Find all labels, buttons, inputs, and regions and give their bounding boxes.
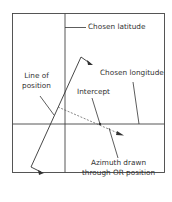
label-line-of-position-line2: position — [22, 81, 51, 91]
label-line-of-position: Line of position — [22, 71, 51, 90]
leader-intercept — [92, 98, 100, 124]
label-intercept: Intercept — [77, 87, 110, 97]
leader-chosen-longitude — [133, 82, 139, 124]
label-azimuth-line1: Azimuth drawn — [82, 158, 155, 168]
arrowhead-icon — [87, 60, 93, 65]
arrowhead-icon — [116, 131, 124, 136]
leader-line-of-position — [40, 96, 54, 115]
label-chosen-latitude: Chosen latitude — [88, 22, 145, 32]
label-azimuth: Azimuth drawn through OR position — [82, 158, 155, 177]
azimuth-line — [58, 107, 120, 134]
label-azimuth-line2: through OR position — [82, 168, 155, 178]
label-chosen-longitude: Chosen longitude — [100, 68, 164, 78]
label-line-of-position-line1: Line of — [22, 71, 51, 81]
